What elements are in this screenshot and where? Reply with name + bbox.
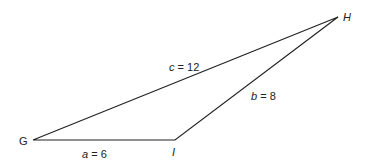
side-label-a: a = 6: [82, 148, 107, 160]
triangle-ghi: [33, 17, 338, 140]
triangle-diagram: G H I c = 12 b = 8 a = 6: [0, 0, 372, 167]
vertex-label-g: G: [19, 135, 28, 147]
vertex-label-h: H: [343, 11, 351, 23]
side-label-c: c = 12: [169, 61, 199, 73]
side-label-b: b = 8: [251, 90, 276, 102]
vertex-label-i: I: [172, 146, 175, 158]
